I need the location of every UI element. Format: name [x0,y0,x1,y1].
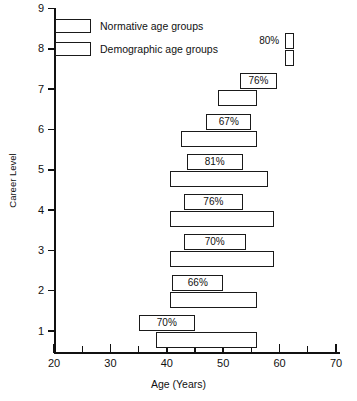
legend-swatch-demographic [55,42,91,56]
y-tick-3 [48,250,54,252]
bar-normative-level-2: 66% [172,275,223,291]
bar-percent-label-level-5: 81% [205,157,225,167]
y-tick-2 [48,290,54,292]
y-tick-9 [48,8,54,10]
y-tick-4 [48,209,54,211]
y-tick-label-1: 1 [26,326,44,337]
x-tick-label-70: 70 [321,357,351,369]
x-tick-label-30: 30 [95,357,125,369]
bar-demographic-level-8 [285,50,293,66]
x-tick-label-20: 20 [39,357,69,369]
x-tick-30 [110,344,112,353]
bar-normative-level-4: 76% [184,194,243,210]
bar-demographic-level-1 [156,332,258,348]
bar-percent-label-level-8: 80% [259,36,279,46]
y-tick-1 [48,330,54,332]
bar-normative-level-5: 81% [187,154,243,170]
chart-canvas: 123456789 203040506070 80%76%67%81%76%70… [0,0,357,401]
y-tick-8 [48,48,54,50]
bar-normative-level-1: 70% [139,315,195,331]
y-tick-label-9: 9 [26,3,44,14]
y-tick-label-4: 4 [26,205,44,216]
bar-demographic-level-7 [218,90,257,106]
bar-percent-label-level-4: 76% [203,197,223,207]
legend-label-normative: Normative age groups [100,21,203,32]
legend-item-demographic: Demographic age groups [55,41,218,57]
bar-demographic-level-2 [170,292,257,308]
y-tick-label-7: 7 [26,84,44,95]
bar-demographic-level-4 [170,211,274,227]
x-minor-tick-65 [307,346,308,353]
bar-percent-label-level-1: 70% [157,318,177,328]
x-minor-tick-25 [82,346,83,353]
bar-percent-label-level-7: 76% [248,76,268,86]
y-axis-title: Career Level [7,141,18,221]
y-tick-label-6: 6 [26,124,44,135]
x-tick-label-50: 50 [208,357,238,369]
y-tick-label-2: 2 [26,285,44,296]
x-axis-title: Age (Years) [0,378,357,390]
bar-percent-label-level-6: 67% [219,117,239,127]
x-minor-tick-35 [138,346,139,353]
x-tick-label-40: 40 [152,357,182,369]
bar-normative-level-7: 76% [240,73,277,89]
legend-label-demographic: Demographic age groups [100,44,218,55]
bar-normative-level-6: 67% [206,114,251,130]
bar-percent-label-level-2: 66% [188,278,208,288]
bar-percent-label-level-3: 70% [205,237,225,247]
y-tick-label-3: 3 [26,245,44,256]
x-tick-label-60: 60 [265,357,295,369]
x-tick-60 [279,344,281,353]
bar-normative-level-3: 70% [184,234,246,250]
bar-demographic-level-3 [170,251,274,267]
x-tick-20 [53,344,55,353]
y-tick-label-8: 8 [26,43,44,54]
bar-demographic-level-5 [170,171,269,187]
x-axis-line [54,352,340,354]
legend-swatch-normative [55,19,91,33]
y-tick-5 [48,169,54,171]
bar-normative-level-8 [285,33,293,49]
x-tick-70 [335,344,337,353]
legend-item-normative: Normative age groups [55,18,218,34]
y-tick-6 [48,129,54,131]
bar-demographic-level-6 [181,131,257,147]
legend: Normative age groups Demographic age gro… [55,18,218,64]
y-tick-label-5: 5 [26,164,44,175]
y-tick-7 [48,88,54,90]
